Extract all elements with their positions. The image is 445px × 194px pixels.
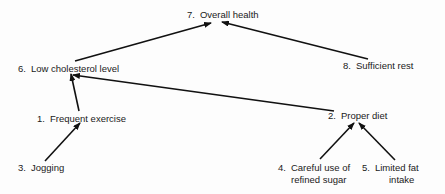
node-label: Sufficient rest [356,60,413,71]
node-number: 5. [362,162,370,173]
node-label: Jogging [31,162,64,173]
node-frequent-exercise: 1.Frequent exercise [37,113,126,125]
node-careful-sugar: 4.Careful use of refined sugar [278,162,350,186]
arrow-1-to-6 [71,74,79,111]
node-number: 2. [328,110,336,121]
node-label: Frequent exercise [50,113,126,124]
node-label: Proper diet [341,110,387,121]
arrow-8-to-7 [222,22,368,59]
node-number: 7. [187,9,195,20]
arrow-3-to-1 [45,123,80,161]
node-proper-diet: 2.Proper diet [328,110,387,122]
node-label-line2: intake [362,174,419,186]
node-label-line1: Limited fat [375,162,419,173]
arrow-2-to-6 [73,75,334,111]
node-number: 3. [18,162,26,173]
diagram-canvas: 7.Overall health 6.Low cholesterol level… [0,0,445,194]
node-number: 4. [278,162,286,173]
node-overall-health: 7.Overall health [187,9,259,21]
node-jogging: 3.Jogging [18,162,64,174]
node-sufficient-rest: 8.Sufficient rest [343,60,413,72]
node-number: 8. [343,60,351,71]
node-low-cholesterol: 6.Low cholesterol level [18,63,119,75]
node-number: 1. [37,113,45,124]
node-number: 6. [18,63,26,74]
arrow-5-to-2 [359,123,395,160]
node-limited-fat: 5.Limited fat intake [362,162,419,186]
arrow-6-to-7 [75,23,211,61]
arrow-4-to-2 [320,123,354,159]
node-label: Overall health [200,9,259,20]
node-label-line1: Careful use of [291,162,350,173]
node-label: Low cholesterol level [31,63,119,74]
node-label-line2: refined sugar [278,174,350,186]
